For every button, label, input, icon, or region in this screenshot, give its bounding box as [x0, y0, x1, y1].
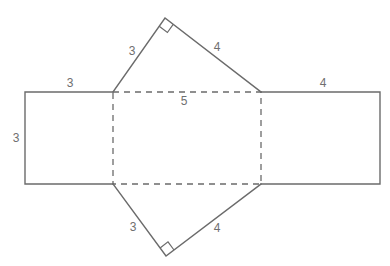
- label-bottom-triangle-left-leg: 3: [130, 220, 137, 234]
- label-right-rectangle-top: 4: [320, 76, 327, 90]
- label-top-triangle-left-leg: 3: [129, 44, 136, 58]
- label-center-rectangle-top: 5: [181, 94, 188, 108]
- prism-net-diagram: 3 4 3 3 5 4 3 4: [0, 0, 390, 266]
- right-rectangle-outline: [261, 92, 380, 184]
- label-bottom-triangle-right-leg: 4: [214, 221, 221, 235]
- label-left-rectangle-side: 3: [13, 131, 20, 145]
- label-top-triangle-right-leg: 4: [214, 40, 221, 54]
- bottom-right-angle-marker: [160, 242, 174, 250]
- left-rectangle-outline: [25, 92, 113, 184]
- label-left-rectangle-top: 3: [67, 76, 74, 90]
- top-right-angle-marker: [159, 24, 173, 32]
